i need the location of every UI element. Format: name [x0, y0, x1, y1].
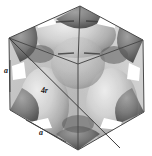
fcc-unit-cell-figure: a a 4r	[0, 0, 152, 156]
label-edge-length-left: a	[4, 67, 8, 75]
seam-crown-left	[56, 21, 74, 22]
label-edge-length-bottom: a	[39, 129, 43, 137]
seam-top-right	[84, 53, 100, 54]
seam-top-left	[58, 53, 74, 54]
unit-cell-drawing	[0, 0, 152, 156]
contact-shadow-upper-right	[100, 46, 128, 64]
contact-shadow-upper-left	[26, 45, 54, 63]
label-face-diagonal-4r: 4r	[41, 87, 48, 95]
atom-sphere-group	[9, 6, 144, 150]
